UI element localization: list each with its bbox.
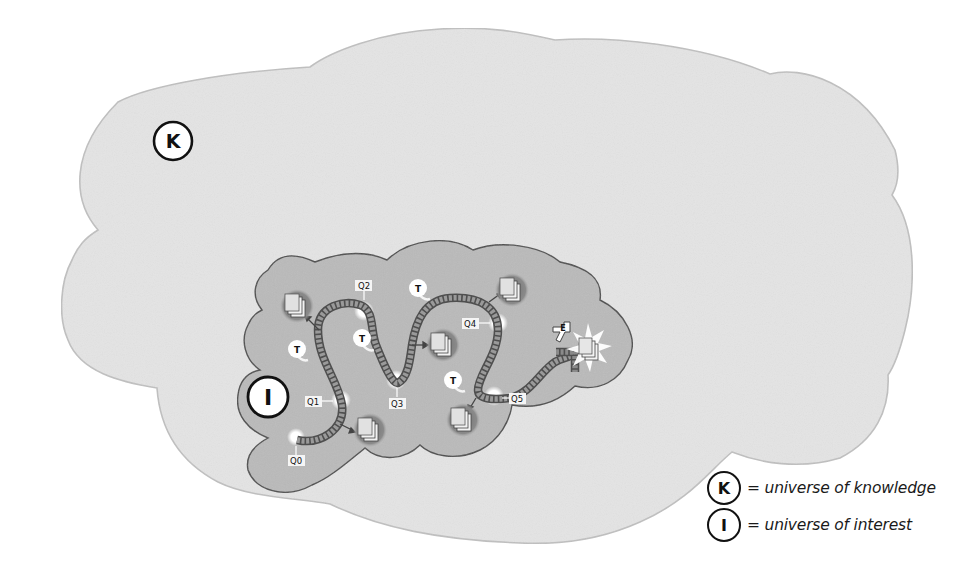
svg-text:Q4: Q4 xyxy=(464,319,476,329)
document-stack-icon xyxy=(353,413,387,447)
legend-item-knowledge: K = universe of knowledge xyxy=(707,471,936,505)
universe-of-knowledge-badge: K xyxy=(154,122,192,160)
svg-text:T: T xyxy=(359,334,366,344)
i-symbol: I xyxy=(264,385,272,410)
svg-text:T: T xyxy=(450,376,457,386)
document-stack-icon xyxy=(446,403,480,437)
document-stack-icon xyxy=(495,273,529,307)
universe-of-interest-badge: I xyxy=(248,377,288,417)
legend-item-interest: I = universe of interest xyxy=(707,508,912,542)
document-stack-icon xyxy=(426,328,460,362)
legend-label-knowledge: = universe of knowledge xyxy=(747,479,936,497)
svg-text:Q0: Q0 xyxy=(290,456,302,466)
end-marker-label: E xyxy=(560,324,565,333)
svg-text:Q5: Q5 xyxy=(511,394,523,404)
i-legend-badge: I xyxy=(707,508,741,542)
svg-text:Q1: Q1 xyxy=(307,397,319,407)
legend-label-interest: = universe of interest xyxy=(747,516,912,534)
svg-text:Q3: Q3 xyxy=(391,399,403,409)
svg-text:T: T xyxy=(294,345,301,355)
document-stack-icon xyxy=(280,289,314,323)
svg-text:T: T xyxy=(415,284,422,294)
k-legend-badge: K xyxy=(707,471,741,505)
svg-text:Q2: Q2 xyxy=(358,281,370,291)
k-symbol: K xyxy=(166,130,182,152)
